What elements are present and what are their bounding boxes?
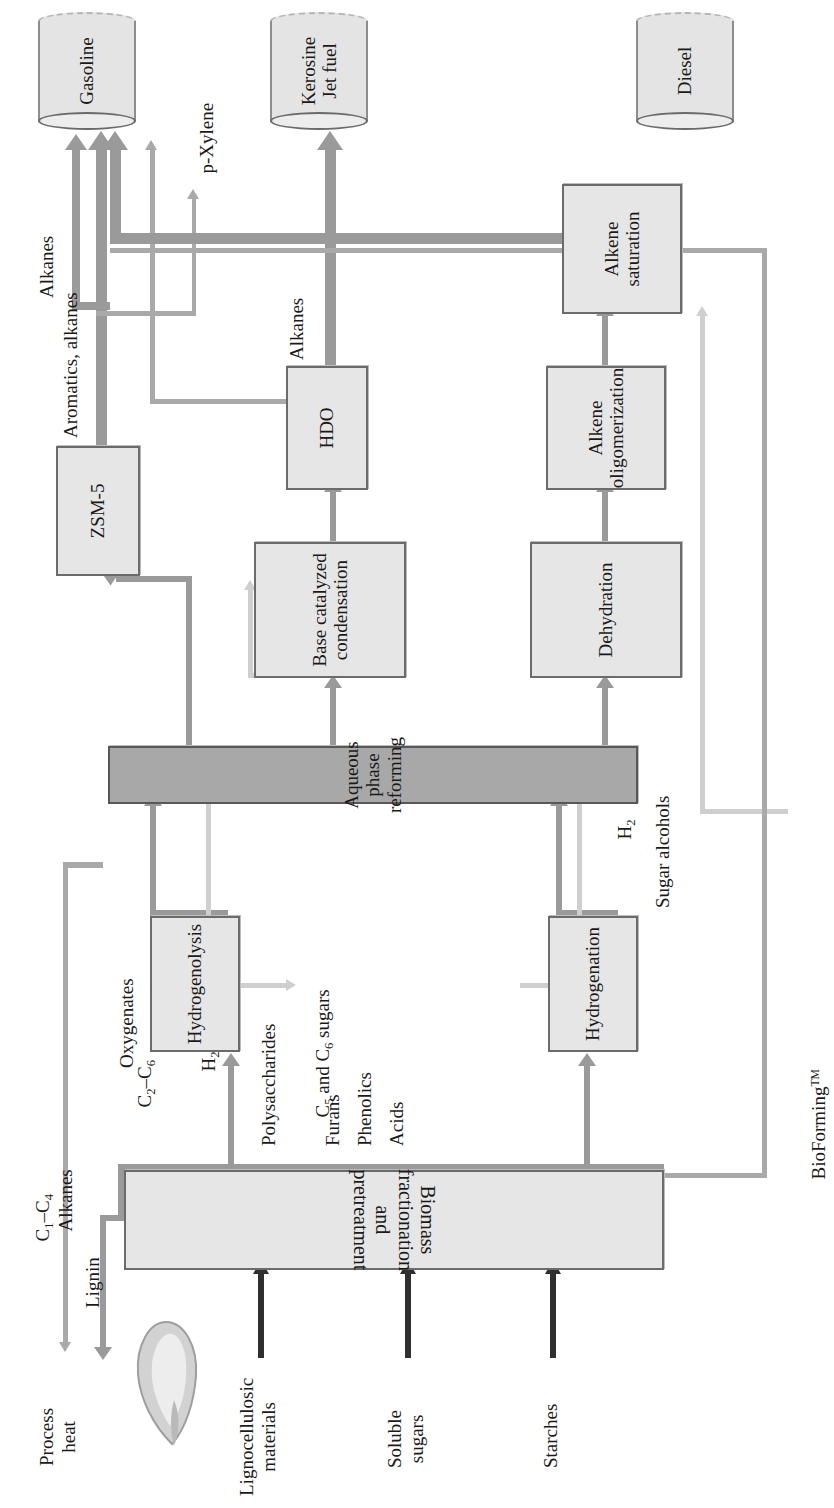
product-tank-kerosene-jet-label: Kerosine Jet fuel — [270, 12, 368, 130]
c2-c6-mid: –C — [134, 1066, 155, 1088]
product-tank-kerosene-jet[interactable]: Kerosine Jet fuel — [270, 12, 368, 130]
label-alkanes-middle: Alkanes — [286, 298, 308, 360]
bioforming-text: BioForming — [808, 1087, 829, 1180]
product-tank-diesel-label: Diesel — [636, 12, 734, 130]
c5c6-post: sugars — [312, 989, 333, 1042]
c1-c4-text: C1–C4 — [32, 1194, 53, 1241]
label-p-xylene: p-Xylene — [174, 103, 239, 202]
product-tank-diesel[interactable]: Diesel — [636, 12, 734, 130]
label-sugar-alcohols: Sugar alcohols — [652, 796, 674, 908]
label-process-heat: Process heat — [36, 1408, 79, 1466]
label-h2-upper: H2 — [176, 1052, 243, 1101]
label-bioforming: BioFormingTM — [786, 1069, 834, 1208]
h2-upper-sub: 2 — [207, 1052, 221, 1058]
label-furans: Furans — [322, 1094, 344, 1146]
bioforming-tm: TM — [808, 1069, 821, 1087]
label-polysaccharides: Polysaccharides — [258, 1024, 280, 1146]
feed-label-starches: Starches — [540, 1404, 562, 1468]
label-h2-lower: H2 — [592, 820, 659, 869]
label-alkanes-right: Alkanes — [36, 236, 58, 298]
p-xylene-italic: p- — [196, 158, 217, 174]
c2-c6-pre: C — [134, 1095, 155, 1108]
product-tank-gasoline[interactable]: Gasoline — [38, 12, 136, 130]
label-c1-c4-alkanes: C1–C4 Alkanes — [10, 1169, 99, 1270]
c2-c6-sub1: 2 — [143, 1089, 157, 1095]
h2-lower-sub: 2 — [623, 820, 637, 826]
c5c6-mid: and C — [312, 1049, 333, 1099]
label-aromatics-alkanes: Aromatics, alkanes — [60, 292, 82, 438]
label-acids: Acids — [386, 1102, 408, 1146]
h2-upper-text: H — [198, 1058, 219, 1072]
feed-label-lignocellulosic: Lignocellulosic materials — [236, 1378, 279, 1496]
c5c6-sub2: 6 — [321, 1043, 335, 1049]
c2-c6-sub2: 6 — [143, 1060, 157, 1066]
feed-label-soluble-sugars: Soluble sugars — [384, 1410, 427, 1468]
label-oxygenates: Oxygenates — [116, 978, 138, 1068]
p-xylene-rest: Xylene — [196, 103, 217, 158]
c1-c4-alkanes-text: Alkanes — [55, 1169, 76, 1231]
label-phenolics: Phenolics — [354, 1072, 376, 1146]
product-tank-gasoline-label: Gasoline — [38, 12, 136, 130]
label-c2-c6: C2–C6 — [112, 1060, 179, 1136]
h2-lower-text: H — [614, 826, 635, 840]
